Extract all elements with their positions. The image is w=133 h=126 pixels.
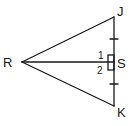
geometry-diagram: R J K S 1 2 [0, 0, 133, 126]
point-label-j: J [117, 4, 124, 19]
angle-label-2: 2 [97, 65, 103, 76]
point-label-s: S [117, 56, 126, 71]
point-label-r: R [3, 55, 12, 70]
point-label-k: K [117, 105, 126, 120]
angle-label-1: 1 [98, 50, 104, 61]
